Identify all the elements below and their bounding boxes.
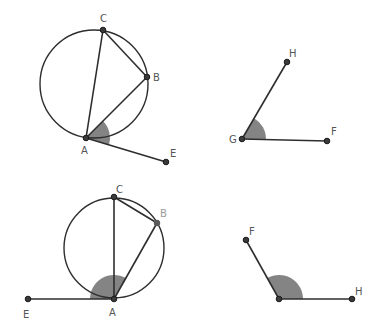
point-label-h: H xyxy=(355,286,363,297)
segment-ab xyxy=(86,77,147,138)
point-g[interactable] xyxy=(239,136,245,142)
angle-sector xyxy=(242,118,266,139)
segment-ab xyxy=(114,223,157,299)
figure-top-right: GHF xyxy=(229,48,337,145)
point-label-f: F xyxy=(331,126,337,137)
point-label-g: G xyxy=(229,134,237,145)
segment-cb xyxy=(114,197,157,223)
geometry-canvas: ABCEGHFABCEFH xyxy=(0,0,380,331)
figure-bottom-left: ABCE xyxy=(23,184,167,320)
point-e[interactable] xyxy=(163,159,169,165)
point-label-h: H xyxy=(289,48,297,59)
point-h[interactable] xyxy=(284,59,290,65)
point-label-f: F xyxy=(249,226,255,237)
point-v[interactable] xyxy=(276,296,282,302)
segment-ac xyxy=(86,30,103,138)
point-label-a: A xyxy=(81,145,88,156)
point-c[interactable] xyxy=(100,27,106,33)
point-f[interactable] xyxy=(324,138,330,144)
point-a[interactable] xyxy=(111,296,117,302)
figure-top-left: ABCE xyxy=(40,13,176,165)
point-f[interactable] xyxy=(243,237,249,243)
point-label-c: C xyxy=(100,13,107,24)
segment-gh xyxy=(242,62,287,139)
segment-ae xyxy=(86,138,166,162)
point-label-a: A xyxy=(109,307,116,318)
point-label-e: E xyxy=(170,148,176,159)
point-c[interactable] xyxy=(111,194,117,200)
segment-vf xyxy=(246,240,279,299)
point-label-e: E xyxy=(23,309,29,320)
segment-gf xyxy=(242,139,327,141)
point-label-c: C xyxy=(116,184,123,195)
point-label-b: B xyxy=(153,72,160,83)
segment-cb xyxy=(103,30,147,77)
point-label-b: B xyxy=(160,208,167,219)
point-b[interactable] xyxy=(154,220,160,226)
figure-bottom-right: FH xyxy=(243,226,362,302)
point-a[interactable] xyxy=(83,135,89,141)
point-b[interactable] xyxy=(144,74,150,80)
point-h[interactable] xyxy=(349,296,355,302)
point-e[interactable] xyxy=(25,296,31,302)
